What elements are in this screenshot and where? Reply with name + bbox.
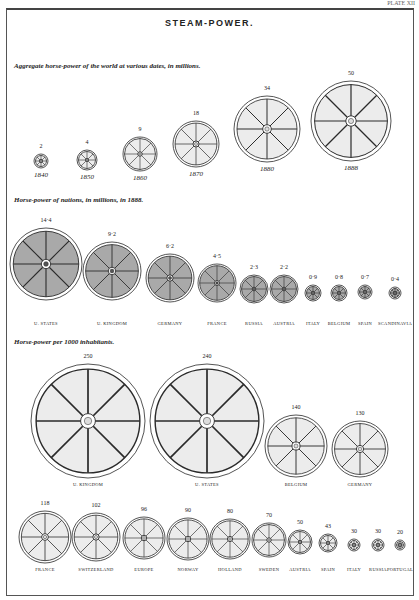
nations-wheel-item: 0·9ITALY	[303, 283, 323, 303]
wheel-icon	[70, 511, 122, 563]
wheel-icon	[17, 509, 73, 565]
wheel-icon	[387, 285, 403, 301]
country-label: PORTUGAL	[373, 567, 419, 572]
wheel-value: 130	[330, 410, 390, 416]
per_capita-wheel-item: 102SWITZERLAND	[70, 511, 122, 563]
wheel-value: 6·2	[144, 243, 196, 249]
year-label: 1888	[299, 164, 403, 172]
wheel-value: 140	[263, 404, 329, 410]
wheel-icon	[165, 516, 211, 562]
year-label: 1840	[22, 171, 60, 179]
wheel-icon	[144, 252, 196, 304]
section-heading-per-capita: Horse-power per 1000 inhabitants.	[14, 338, 114, 346]
wheel-icon	[329, 283, 349, 303]
wheel-icon	[393, 538, 407, 552]
wheel-value: 2·3	[238, 264, 270, 270]
wheel-value: 30	[370, 528, 386, 534]
plate-label: PLATE XII	[387, 0, 415, 6]
wheel-icon	[171, 119, 221, 169]
world-wheel-item: 501888	[309, 79, 393, 163]
per_capita-wheel-item: 70SWEDEN	[250, 521, 288, 559]
per_capita-wheel-item: 240U. STATES	[148, 362, 266, 480]
wheel-value: 96	[121, 506, 167, 512]
wheel-icon	[356, 283, 374, 301]
wheel-icon	[75, 148, 99, 172]
wheel-value: 240	[148, 353, 266, 359]
wheel-value: 2·2	[268, 264, 300, 270]
wheel-value: 0·8	[329, 274, 349, 280]
wheel-icon	[317, 532, 339, 554]
per_capita-wheel-item: 30ITALY	[346, 537, 362, 553]
wheel-value: 30	[346, 528, 362, 534]
wheel-icon	[29, 362, 147, 480]
wheel-icon	[303, 283, 323, 303]
per_capita-wheel-item: 250U. KINGDOM	[29, 362, 147, 480]
year-label: 1870	[161, 170, 231, 178]
wheel-value: 4·5	[196, 253, 238, 259]
wheel-icon	[81, 240, 143, 302]
nations-wheel-item: 0·8BELGIUM	[329, 283, 349, 303]
year-label: 1850	[65, 173, 109, 181]
nations-wheel-item: 4·5FRANCE	[196, 262, 238, 304]
wheel-icon	[232, 94, 302, 164]
wheel-value: 50	[309, 70, 393, 76]
per_capita-wheel-item: 96EUROPE	[121, 515, 167, 561]
world-wheel-item: 181870	[171, 119, 221, 169]
nations-wheel-item: 0·4SCANDINAVIA	[387, 285, 403, 301]
wheel-value: 0·9	[303, 274, 323, 280]
nations-wheel-item: 14·4U. STATES	[8, 226, 84, 302]
per_capita-wheel-item: 118FRANCE	[17, 509, 73, 565]
wheel-icon	[268, 273, 300, 305]
wheel-value: 70	[250, 512, 288, 518]
wheel-value: 80	[208, 508, 252, 514]
wheel-icon	[250, 521, 288, 559]
nations-wheel-item: 0·7SPAIN	[356, 283, 374, 301]
wheel-value: 4	[75, 139, 99, 145]
wheel-value: 0·4	[387, 276, 403, 282]
wheel-icon	[32, 152, 50, 170]
wheel-icon	[238, 273, 270, 305]
wheel-icon	[346, 537, 362, 553]
per_capita-wheel-item: 80HOLLAND	[208, 517, 252, 561]
per_capita-wheel-item: 30RUSSIA	[370, 537, 386, 553]
section-heading-world: Aggregate horse-power of the world at va…	[14, 62, 201, 70]
wheel-value: 34	[232, 85, 302, 91]
wheel-value: 250	[29, 353, 147, 359]
wheel-icon	[263, 413, 329, 479]
wheel-icon	[196, 262, 238, 304]
wheel-icon	[309, 79, 393, 163]
wheel-icon	[208, 517, 252, 561]
world-wheel-item: 21840	[32, 152, 50, 170]
page-title: STEAM-POWER.	[0, 18, 419, 28]
wheel-value: 2	[32, 143, 50, 149]
world-wheel-item: 91860	[121, 135, 159, 173]
nations-wheel-item: 9·2U. KINGDOM	[81, 240, 143, 302]
wheel-icon	[8, 226, 84, 302]
wheel-value: 9·2	[81, 231, 143, 237]
wheel-value: 50	[286, 519, 314, 525]
country-label: GERMANY	[310, 482, 410, 487]
per_capita-wheel-item: 50AUSTRIA	[286, 528, 314, 556]
wheel-value: 0·7	[356, 274, 374, 280]
wheel-value: 18	[171, 110, 221, 116]
world-wheel-item: 341880	[232, 94, 302, 164]
wheel-icon	[121, 135, 159, 173]
per_capita-wheel-item: 130GERMANY	[330, 419, 390, 479]
wheel-icon	[330, 419, 390, 479]
wheel-icon	[370, 537, 386, 553]
nations-wheel-item: 2·2AUSTRIA	[268, 273, 300, 305]
per_capita-wheel-item: 43SPAIN	[317, 532, 339, 554]
country-label: SCANDINAVIA	[367, 321, 419, 326]
wheel-icon	[121, 515, 167, 561]
wheel-icon	[286, 528, 314, 556]
wheel-icon	[148, 362, 266, 480]
nations-wheel-item: 2·3RUSSIA	[238, 273, 270, 305]
wheel-value: 20	[393, 529, 407, 535]
wheel-value: 9	[121, 126, 159, 132]
wheel-value: 14·4	[8, 217, 84, 223]
nations-wheel-item: 6·2GERMANY	[144, 252, 196, 304]
section-heading-nations: Horse-power of nations, in millions, in …	[14, 196, 143, 204]
wheel-value: 43	[317, 523, 339, 529]
wheel-value: 90	[165, 507, 211, 513]
per_capita-wheel-item: 140BELGIUM	[263, 413, 329, 479]
